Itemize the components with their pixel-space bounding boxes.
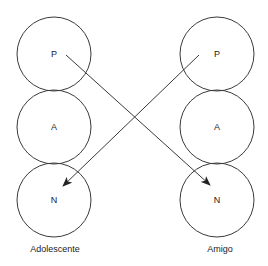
column-amigo: P A N Amigo [180,17,254,254]
arrow-amigo-parent-to-adolescente-child [63,55,199,186]
column-label-adolescente: Adolescente [30,244,80,254]
column-label-amigo: Amigo [207,244,233,254]
transactional-diagram: P A N Adolescente P A N Amigo [0,0,268,266]
child-letter: N [214,195,221,205]
ego-state-parent-left: P [17,17,91,91]
adult-letter: A [51,122,57,132]
child-letter: N [51,195,58,205]
parent-letter: P [214,49,220,59]
ego-state-adult-right: A [180,90,254,164]
arrow-adolescente-parent-to-amigo-child [66,55,210,185]
ego-state-adult-left: A [17,90,91,164]
ego-state-parent-right: P [180,17,254,91]
ego-state-child-right: N [180,163,254,237]
column-adolescente: P A N Adolescente [17,17,91,254]
adult-letter: A [214,122,220,132]
ego-state-child-left: N [17,163,91,237]
parent-letter: P [51,49,57,59]
